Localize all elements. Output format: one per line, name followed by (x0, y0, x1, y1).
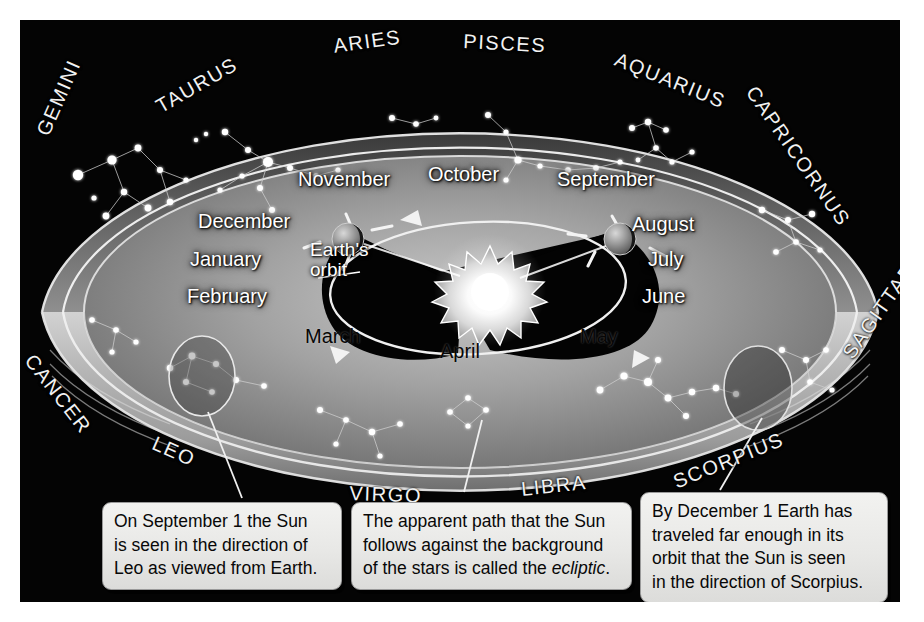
figure-root: GEMINI TAURUS ARIES PISCES AQUARIUS CAPR… (0, 0, 924, 622)
caption-ecliptic-line3: of the stars is called the ecliptic. (363, 557, 620, 581)
diagram-panel: GEMINI TAURUS ARIES PISCES AQUARIUS CAPR… (20, 20, 900, 602)
caption-ecliptic: The apparent path that the Sun follows a… (351, 502, 632, 590)
caption-ecliptic-line1: The apparent path that the Sun (363, 510, 620, 534)
caption-december-line2: traveled far enough in its (652, 524, 876, 548)
leader-scorpius (720, 418, 762, 490)
caption-ecliptic-line3-after: . (605, 558, 610, 578)
caption-december-line1: By December 1 Earth has (652, 500, 876, 524)
caption-ecliptic-term: ecliptic (552, 558, 606, 578)
caption-december-line4: in the direction of Scorpius. (652, 571, 876, 595)
caption-september-line3: Leo as viewed from Earth. (114, 557, 330, 581)
caption-ecliptic-line2: follows against the background (363, 534, 620, 558)
leader-leo (208, 412, 242, 498)
caption-september-line2: is seen in the direction of (114, 534, 330, 558)
leader-ecliptic (464, 420, 482, 492)
caption-september: On September 1 the Sun is seen in the di… (102, 502, 342, 590)
caption-september-line1: On September 1 the Sun (114, 510, 330, 534)
caption-december: By December 1 Earth has traveled far eno… (640, 492, 888, 602)
caption-december-line3: orbit that the Sun is seen (652, 547, 876, 571)
caption-ecliptic-line3-before: of the stars is called the (363, 558, 552, 578)
